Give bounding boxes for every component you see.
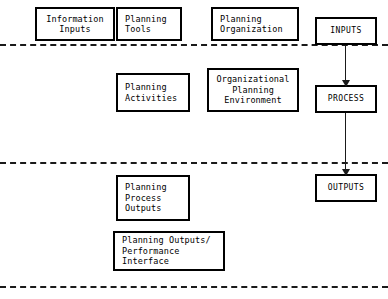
node-inputs[interactable]: INPUTS (316, 18, 376, 44)
node-organizational-planning-environment[interactable]: Organizational Planning Environment (208, 69, 298, 111)
node-planning-tools-line-1: Planning (125, 14, 167, 25)
arrowhead-inputs-to-process (342, 80, 350, 87)
node-planning-process-outputs-line-1: Planning (125, 182, 167, 193)
node-planning-activities[interactable]: Planning Activities (117, 74, 189, 111)
arrowhead-process-to-outputs (342, 169, 350, 176)
node-organizational-planning-environment-line-2: Planning (232, 85, 274, 96)
node-planning-tools-line-2: Tools (125, 24, 151, 35)
node-inputs-label: INPUTS (330, 26, 361, 37)
node-planning-organization-line-2: Organization (220, 24, 283, 35)
connector-process-to-outputs (345, 112, 346, 175)
node-information-inputs[interactable]: Information Inputs (36, 8, 114, 40)
node-planning-tools[interactable]: Planning Tools (117, 8, 181, 40)
node-planning-organization[interactable]: Planning Organization (212, 8, 298, 40)
node-information-inputs-line-2: Inputs (59, 24, 90, 35)
planning-process-diagram: Information Inputs Planning Tools Planni… (0, 0, 388, 299)
node-planning-process-outputs[interactable]: Planning Process Outputs (117, 176, 189, 220)
node-outputs[interactable]: OUTPUTS (316, 175, 376, 201)
node-planning-process-outputs-line-3: Outputs (125, 203, 162, 214)
divider-process-band (0, 162, 388, 164)
node-outputs-label: OUTPUTS (328, 183, 365, 194)
node-planning-activities-line-2: Activities (125, 93, 177, 104)
node-planning-outputs-performance-interface-line-1: Planning Outputs/ (122, 235, 211, 246)
node-planning-activities-line-1: Planning (125, 82, 167, 93)
node-process-label: PROCESS (328, 94, 365, 105)
node-planning-outputs-performance-interface-line-3: Interface (122, 256, 169, 267)
node-organizational-planning-environment-line-3: Environment (224, 95, 281, 106)
node-planning-organization-line-1: Planning (220, 14, 262, 25)
node-information-inputs-line-1: Information (46, 14, 103, 25)
divider-outputs-band (0, 286, 388, 288)
node-process[interactable]: PROCESS (316, 86, 376, 112)
divider-inputs-band (0, 44, 388, 46)
node-planning-process-outputs-line-2: Process (125, 193, 162, 204)
node-planning-outputs-performance-interface[interactable]: Planning Outputs/ Performance Interface (114, 232, 224, 270)
node-organizational-planning-environment-line-1: Organizational (216, 74, 289, 85)
node-planning-outputs-performance-interface-line-2: Performance (122, 246, 179, 257)
